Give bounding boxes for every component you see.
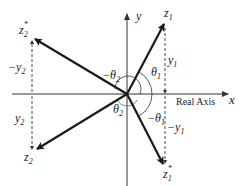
y1-label: y1: [167, 53, 177, 69]
z1-label: z1: [163, 6, 173, 22]
complex-plane-diagram: y x Real Axis z1 z1* z2* z2 y1 −y1 −y2 y…: [0, 0, 245, 186]
z2-label: z2: [23, 150, 33, 166]
real-axis-label: Real Axis: [176, 96, 215, 107]
neg-y2-label: −y2: [8, 60, 25, 76]
y-axis-label: y: [135, 9, 142, 23]
x-axis-label: x: [228, 92, 235, 107]
y2-label: y2: [14, 111, 24, 127]
neg-y1-label: −y1: [167, 120, 184, 136]
neg-theta2-label: −θ2: [102, 68, 120, 84]
z1-vector: [127, 24, 164, 94]
z2-conjugate-label: z2*: [18, 20, 28, 39]
z2-conjugate-vector: [35, 39, 127, 94]
theta1-label: θ1: [151, 65, 161, 81]
neg-theta1-label: −θ1: [147, 111, 165, 127]
z1-conjugate-label: z1*: [162, 164, 172, 183]
z1-conjugate-vector: [127, 94, 163, 164]
